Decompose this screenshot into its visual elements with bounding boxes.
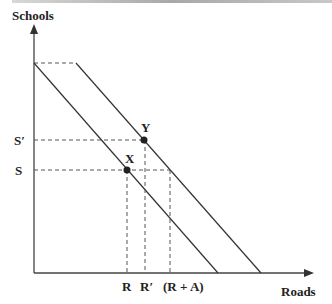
tick-r-prime: R′ [140,279,153,294]
tick-s: S [15,163,22,178]
point-x [124,167,131,174]
y-axis-label: Schools [12,8,54,23]
point-y [141,137,148,144]
point-x-label: X [125,151,135,166]
budget-constraint-diagram: Schools Roads S′ S R R′ (R + A) Y X [0,0,332,304]
outer-budget-line [76,63,261,273]
point-y-label: Y [141,120,151,135]
tick-r-plus-a: (R + A) [163,279,204,294]
x-axis-label: Roads [281,284,316,299]
x-axis-arrow-icon [304,269,314,277]
tick-s-prime: S′ [14,133,25,148]
y-axis-arrow-icon [30,24,38,34]
tick-r: R [122,279,132,294]
